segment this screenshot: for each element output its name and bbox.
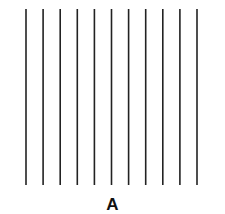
parallel-lines-figure (0, 0, 225, 214)
figure-caption: A (0, 195, 225, 214)
vertical-lines-group (26, 9, 197, 185)
